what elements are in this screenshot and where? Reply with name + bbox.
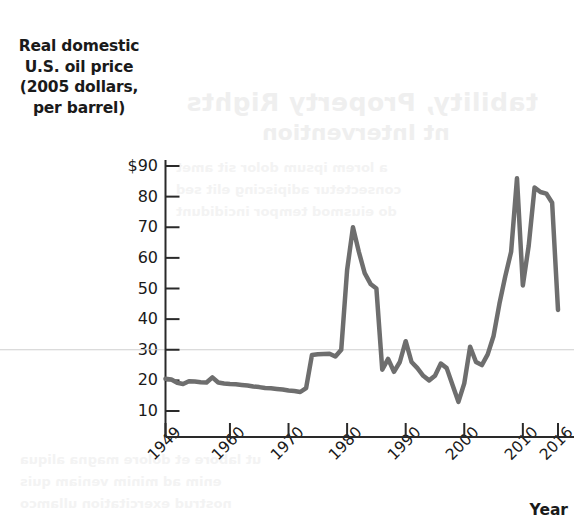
oil-price-series-line: [166, 178, 559, 402]
oil-price-line-chart: [0, 0, 574, 527]
chart-axes: [166, 160, 574, 437]
